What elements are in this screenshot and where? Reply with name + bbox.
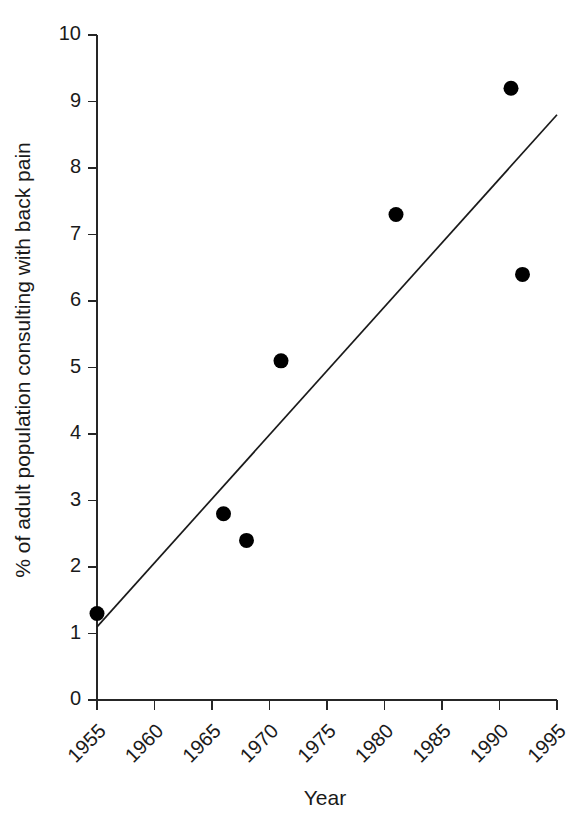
y-tick-label: 8 (70, 155, 81, 177)
y-tick-label: 3 (70, 488, 81, 510)
x-axis-ticks: 195519601965197019751980198519901995 (63, 700, 570, 766)
scatter-plot-figure: 012345678910 195519601965197019751980198… (0, 0, 588, 825)
y-tick-label: 6 (70, 288, 81, 310)
data-point (239, 533, 254, 548)
y-tick-label: 4 (70, 421, 81, 443)
x-tick-label: 1970 (235, 719, 282, 766)
y-tick-label: 2 (70, 554, 81, 576)
data-point (274, 353, 289, 368)
data-point (389, 207, 404, 222)
x-tick-label: 1990 (465, 719, 512, 766)
chart-container: 012345678910 195519601965197019751980198… (0, 0, 588, 825)
trend-line-series (97, 115, 557, 627)
y-tick-label: 7 (70, 222, 81, 244)
x-tick-label: 1995 (523, 719, 570, 766)
x-tick-label: 1975 (293, 719, 340, 766)
x-tick-label: 1960 (120, 719, 167, 766)
y-tick-label: 10 (59, 22, 81, 44)
y-axis-title: % of adult population consulting with ba… (11, 142, 34, 577)
data-point (90, 606, 105, 621)
y-axis-ticks: 012345678910 (59, 22, 97, 709)
data-point-series (90, 81, 531, 621)
y-tick-label: 0 (70, 687, 81, 709)
x-axis-title: Year (304, 786, 346, 809)
y-tick-label: 5 (70, 355, 81, 377)
x-tick-label: 1965 (178, 719, 225, 766)
y-tick-label: 1 (70, 621, 81, 643)
data-point (504, 81, 519, 96)
x-tick-label: 1980 (350, 719, 397, 766)
y-axis-group: 012345678910 (59, 22, 97, 709)
data-point (515, 267, 530, 282)
x-tick-label: 1985 (408, 719, 455, 766)
x-tick-label: 1955 (63, 719, 110, 766)
y-tick-label: 9 (70, 89, 81, 111)
data-point (216, 506, 231, 521)
trend-line (97, 115, 557, 627)
x-axis-group: 195519601965197019751980198519901995 (63, 700, 570, 766)
